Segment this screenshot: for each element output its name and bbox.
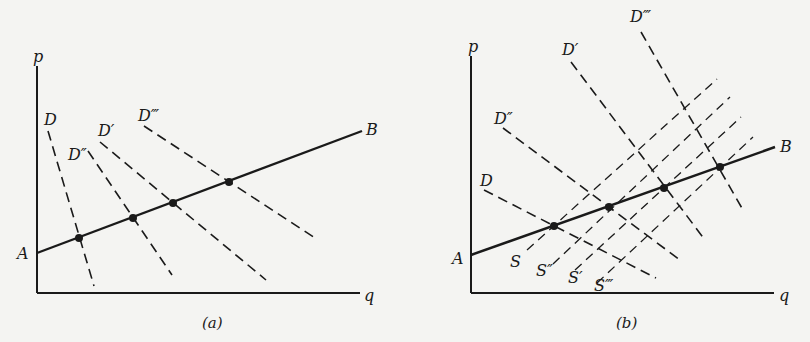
x-axis-label-a: q [364,286,374,305]
point-b-label: B [365,120,378,139]
demand-label-d: D [43,110,57,129]
equilibrium-point-b [716,163,724,171]
demand-labels-a: D D″ D′ D‴ [43,106,160,164]
equilibrium-point-a [75,234,83,242]
equilibrium-point-a [169,199,177,207]
x-axis-label-b: q [779,286,789,305]
supply-demand-diagram: p q A B (a) D D″ D′ D‴ p q A B (b) D D″ [0,0,810,342]
equilibrium-point-a [129,214,137,222]
point-a-label: A [15,244,29,263]
supply-label-s-double: S″ [536,261,553,280]
equilibrium-point-b [660,184,668,192]
demand-label-d-triple: D‴ [137,106,160,125]
y-axis-label-b: p [468,37,478,56]
diagram-root: p q A B (a) D D″ D′ D‴ p q A B (b) D D″ [0,0,810,342]
demand-label-d-double-b: D″ [493,109,513,128]
equilibrium-point-b [605,203,613,211]
demand-label-d-prime: D′ [97,121,115,140]
demand-curve-b [641,32,743,210]
point-a-label-b: A [450,249,464,268]
panel-a: p q A B (a) D D″ D′ D‴ [15,47,378,332]
equilibrium-point-b [550,222,558,230]
y-axis-label-a: p [33,47,43,66]
supply-label-s: S [510,252,521,271]
point-b-label-b: B [779,137,792,156]
supply-curve-b [553,97,730,264]
caption-a: (a) [202,314,223,332]
supply-label-s-prime: S′ [568,268,583,287]
demand-curve-a [88,151,172,275]
demand-label-d-triple-b: D‴ [629,7,652,26]
demand-label-d-b: D [479,171,493,190]
equilibrium-point-a [225,178,233,186]
demand-curve-b [503,128,680,260]
path-line-ab-b [471,147,775,255]
demand-label-d-prime-b: D′ [561,40,579,59]
supply-curve-b [597,137,753,283]
demand-labels-b: D D″ D′ D‴ [479,7,652,190]
panel-b: p q A B (b) D D″ D′ D‴ S S″ S′ S‴ [450,7,792,332]
supply-labels-b: S S″ S′ S‴ [510,252,614,295]
curves-layer [37,32,775,286]
supply-curve-b [575,117,741,270]
demand-label-d-double: D″ [67,145,87,164]
caption-b: (b) [616,314,637,332]
demand-curve-a [100,142,266,280]
supply-label-s-triple: S‴ [594,276,614,295]
